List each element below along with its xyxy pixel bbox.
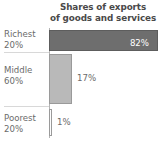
- chart-title: Shares of exports of goods and services: [44, 2, 162, 25]
- category-label-richest-line-2: 20%: [4, 40, 48, 51]
- bar-value-label-richest: 82%: [130, 39, 149, 48]
- chart-title-line-2: of goods and services: [44, 13, 162, 24]
- category-label-middle: Middle 60%: [4, 65, 48, 87]
- chart-title-line-1: Shares of exports: [44, 2, 162, 13]
- category-label-richest: Richest 20%: [4, 29, 48, 51]
- category-separator-1: [4, 52, 50, 53]
- category-label-poorest-line-2: 20%: [4, 124, 48, 135]
- category-label-richest-line-1: Richest: [4, 29, 48, 40]
- plot-area: Richest 20% Middle 60% Poorest 20% 82% 1…: [0, 28, 165, 138]
- category-label-poorest: Poorest 20%: [4, 113, 48, 135]
- chart-figure: Shares of exports of goods and services …: [0, 0, 165, 151]
- category-separator-2: [4, 106, 50, 107]
- category-label-middle-line-2: 60%: [4, 76, 48, 87]
- bar-value-label-poorest: 1%: [57, 118, 71, 127]
- bar-poorest: [49, 109, 52, 136]
- bar-value-label-middle: 17%: [77, 74, 96, 83]
- bar-richest: 82%: [49, 30, 158, 51]
- category-label-poorest-line-1: Poorest: [4, 113, 48, 124]
- bar-middle: [49, 54, 72, 104]
- category-label-middle-line-1: Middle: [4, 65, 48, 76]
